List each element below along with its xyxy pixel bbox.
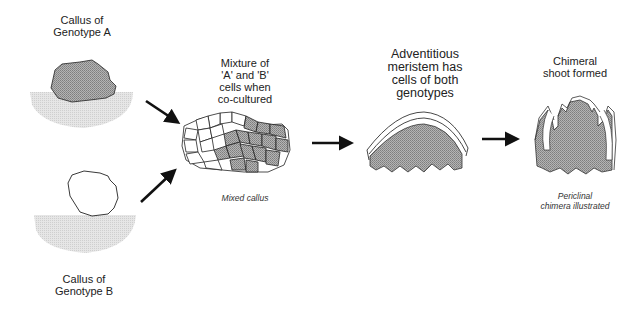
meristem-label: Adventitious meristem has cells of both … (370, 48, 480, 100)
mixture-label-line1: Mixture of (205, 57, 285, 69)
shoot-label: Chimeral shoot formed (530, 55, 620, 79)
callus-a-label: Callus of Genotype A (42, 14, 122, 38)
periclinal-caption-line1: Periclinal (525, 191, 625, 201)
periclinal-caption-line2: chimera illustrated (525, 201, 625, 211)
callus-b-shape (68, 171, 118, 216)
callus-b-illustration (34, 171, 136, 253)
periclinal-caption: Periclinal chimera illustrated (525, 191, 625, 211)
mixed-callus-illustration (182, 112, 290, 172)
shoot-label-line2: shoot formed (530, 67, 620, 79)
meristem-illustration (367, 112, 468, 172)
arrow-b-to-mixture (141, 172, 173, 202)
mixture-label: Mixture of 'A' and 'B' cells when co-cul… (205, 57, 285, 105)
callus-b-label-line1: Callus of (44, 273, 124, 285)
callus-b-label-line2: Genotype B (44, 285, 124, 297)
diagram-canvas (0, 0, 643, 320)
callus-a-shape (51, 60, 116, 102)
arrow-a-to-mixture (146, 101, 176, 121)
mixture-label-line4: co-cultured (205, 93, 285, 105)
callus-a-illustration (30, 60, 133, 128)
shoot-label-line1: Chimeral (530, 55, 620, 67)
callus-a-label-line1: Callus of (42, 14, 122, 26)
callus-b-label: Callus of Genotype B (44, 273, 124, 297)
meristem-label-line4: genotypes (370, 87, 480, 100)
chimeral-shoot-illustration (535, 96, 616, 174)
mixture-label-line3: cells when (205, 81, 285, 93)
mixture-label-line2: 'A' and 'B' (205, 69, 285, 81)
mixed-callus-caption-text: Mixed callus (222, 193, 269, 203)
mixed-callus-caption: Mixed callus (200, 193, 290, 203)
culture-medium-b (34, 215, 136, 253)
callus-a-label-line2: Genotype A (42, 26, 122, 38)
